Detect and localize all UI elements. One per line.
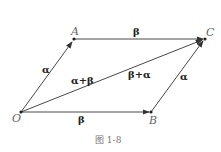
label-vector-b-c: α	[180, 71, 188, 82]
label-vector-o-c-beta-alpha: β+α	[128, 69, 151, 80]
label-vector-o-c-alpha-beta: α+β	[71, 75, 94, 86]
vector-b-c	[151, 41, 203, 112]
parallelogram-diagram: O A B C α β β α α+β β+α 图 1-8	[0, 0, 221, 152]
figure-caption: 图 1-8	[95, 135, 122, 145]
label-c: C	[206, 26, 215, 39]
vector-o-c	[21, 40, 202, 112]
label-vector-o-b: β	[78, 114, 85, 125]
label-vector-a-c: β	[133, 26, 140, 37]
edges	[21, 39, 203, 112]
label-o: O	[12, 112, 21, 125]
label-vector-o-a: α	[42, 64, 50, 75]
label-a: A	[70, 25, 79, 38]
label-b: B	[148, 114, 157, 127]
